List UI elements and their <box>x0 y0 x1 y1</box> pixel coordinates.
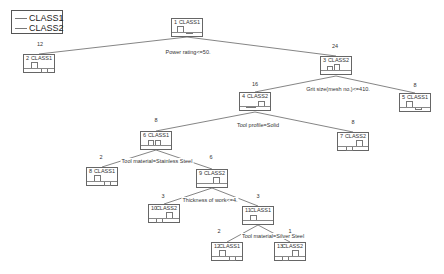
legend-line-icon <box>15 18 27 19</box>
tree-node-9[interactable]: 9 CLASS2 <box>196 169 228 188</box>
legend-item-class2: CLASS2 <box>15 23 64 33</box>
count-node-4: 16 <box>252 81 258 87</box>
tree-node-3[interactable]: 3 CLASS2 <box>320 56 352 75</box>
count-node-7: 8 <box>351 119 354 125</box>
split-label-power-rating: Power rating<=50. <box>165 49 212 55</box>
tree-node-1[interactable]: 1 CLASS1 <box>171 18 203 37</box>
count-node-11: 3 <box>256 193 259 199</box>
count-node-5: 8 <box>413 82 416 88</box>
split-label-grit-size: Grit size(mesh no.)<=410. <box>305 86 371 92</box>
legend-item-class1: CLASS1 <box>15 13 64 23</box>
split-label-tool-profile: Tool profile=Solid <box>236 122 280 128</box>
count-node-6: 8 <box>154 117 157 123</box>
count-node-10: 3 <box>161 193 164 199</box>
count-node-9: 6 <box>209 154 212 160</box>
count-node-8: 2 <box>99 154 102 160</box>
tree-node-13[interactable]: 13 CLASS2 <box>274 242 306 261</box>
tree-node-10[interactable]: 10 CLASS2 <box>148 204 180 223</box>
split-label-tool-material-silver: Tool material=Silver Steel <box>241 233 305 239</box>
tree-node-2[interactable]: 2 CLASS1 <box>23 54 55 73</box>
tree-node-8[interactable]: 8 CLASS1 <box>86 167 118 186</box>
legend: CLASS1 CLASS2 <box>11 10 63 34</box>
count-node-2: 12 <box>37 41 43 47</box>
tree-node-7[interactable]: 7 CLASS2 <box>337 132 369 151</box>
legend-line-icon <box>15 28 27 29</box>
tree-node-11[interactable]: 11 CLASS1 <box>242 206 274 225</box>
split-label-tool-material-ss: Tool material=Stainless Steel <box>121 158 194 164</box>
tree-node-6[interactable]: 6 CLASS1 <box>140 131 172 150</box>
count-node-3: 24 <box>332 43 338 49</box>
count-node-12: 2 <box>217 228 220 234</box>
tree-node-5[interactable]: 5 CLASS1 <box>399 93 431 112</box>
tree-node-4[interactable]: 4 CLASS2 <box>239 92 271 111</box>
split-label-thickness: Thickness of work<=4. <box>181 197 238 203</box>
tree-node-12[interactable]: 12 CLASS1 <box>211 242 243 261</box>
tree-edges <box>0 0 444 274</box>
